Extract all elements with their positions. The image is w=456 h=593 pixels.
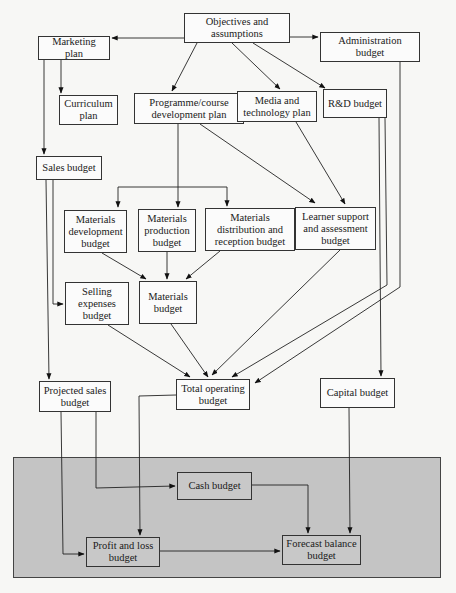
node-mat-dev: Materials development budget [64,210,127,253]
edge-mat-dev-materials [102,253,146,279]
edge-sales-projected [46,180,49,379]
node-objectives: Objectives and assumptions [184,13,290,43]
node-sales: Sales budget [36,156,102,180]
node-learner: Learner support and assessment budget [295,207,376,250]
edge-programme-mat-dist [178,187,227,206]
edge-rd-capital [379,118,381,376]
node-total: Total operating budget [176,379,250,410]
edge-total-pnl [139,395,176,535]
node-pnl: Profit and loss budget [86,537,160,567]
node-curriculum: Curriculum plan [59,95,118,125]
edge-media-learner [296,122,345,204]
edge-programme-learner [200,124,315,203]
edge-materials-total [171,324,208,377]
edge-objectives-programme [172,43,197,91]
node-mat-prod: Materials production budget [138,209,196,252]
node-materials: Materials budget [139,281,197,324]
node-rd: R&D budget [323,89,387,118]
node-projected: Projected sales budget [39,381,111,412]
node-cash: Cash budget [177,472,252,500]
edge-sales-selling [53,180,63,304]
node-media: Media and technology plan [237,91,317,122]
edge-projected-pnl [61,412,84,554]
edge-objectives-media [232,43,280,89]
edge-objectives-rd [253,43,325,88]
node-programme: Programme/course development plan [134,93,244,124]
node-marketing: Marketing plan [38,36,110,60]
edge-projected-cash [96,412,175,488]
node-administration: Administration budget [320,32,420,62]
edge-programme-mat-dev [118,187,178,207]
edge-mat-dist-materials [186,251,220,279]
edge-learner-total [212,250,340,375]
edge-cash-forecast [252,485,308,533]
edge-capital-forecast [349,408,350,533]
node-selling: Selling expenses budget [65,282,129,325]
node-mat-dist: Materials distribution and reception bud… [205,208,295,251]
node-forecast: Forecast balance budget [282,535,361,565]
edge-selling-total [108,325,190,377]
node-capital: Capital budget [320,378,395,408]
